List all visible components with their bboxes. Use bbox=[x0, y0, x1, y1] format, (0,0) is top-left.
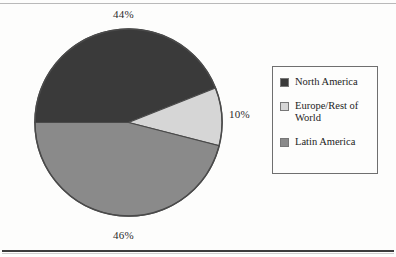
page-rule-bottom bbox=[2, 250, 394, 252]
legend-item-label: Latin America bbox=[295, 136, 355, 149]
legend-swatch-icon bbox=[280, 138, 289, 147]
legend-item-label: North America bbox=[295, 76, 358, 89]
slice-value-latin-america: 46% bbox=[113, 229, 134, 241]
pie-chart-svg bbox=[33, 27, 224, 218]
legend-swatch-icon bbox=[280, 102, 289, 111]
page-rule-bottom-light bbox=[2, 253, 394, 254]
page-rule-top bbox=[0, 3, 396, 4]
legend-item-latin-america: Latin America bbox=[280, 136, 371, 149]
slice-value-north-america: 44% bbox=[113, 8, 134, 20]
slice-value-europe-rest-of-world: 10% bbox=[229, 108, 250, 120]
legend: North America Europe/Rest of World Latin… bbox=[272, 66, 378, 174]
pie-chart bbox=[33, 27, 224, 218]
legend-item-europe-rest-of-world: Europe/Rest of World bbox=[280, 100, 371, 125]
legend-swatch-icon bbox=[280, 78, 289, 87]
legend-item-label: Europe/Rest of World bbox=[295, 100, 371, 125]
legend-item-north-america: North America bbox=[280, 76, 371, 89]
figure-page: 44% 10% 46% North America Europe/Rest of… bbox=[0, 0, 396, 257]
